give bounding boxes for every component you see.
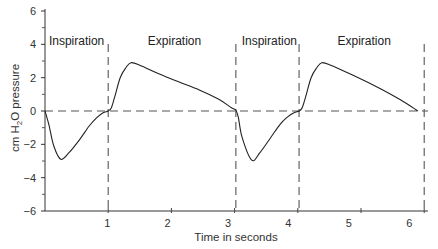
chart: 6420−2−4−6 123456 InspirationExpirationI… bbox=[0, 0, 438, 249]
y-axis-title-pre: cm H bbox=[9, 125, 21, 152]
x-tick-label: 1 bbox=[104, 217, 110, 229]
phase-label: Expiration bbox=[148, 34, 201, 48]
reference-lines bbox=[45, 44, 428, 211]
y-axis-ticks: 6420−2−4−6 bbox=[23, 5, 45, 217]
y-tick-label: −6 bbox=[23, 205, 36, 217]
y-tick-label: −2 bbox=[23, 138, 36, 150]
phase-annotations: InspirationExpirationInspirationExpirati… bbox=[49, 34, 391, 48]
x-tick-label: 6 bbox=[406, 217, 412, 229]
x-tick-label: 5 bbox=[346, 217, 352, 229]
x-tick-label: 2 bbox=[165, 217, 171, 229]
x-tick-label: 4 bbox=[285, 217, 291, 229]
y-axis-title-post: O pressure bbox=[9, 64, 21, 121]
pressure-curve bbox=[45, 63, 418, 161]
y-tick-label: 4 bbox=[30, 38, 36, 50]
phase-label: Inspiration bbox=[49, 34, 104, 48]
x-tick-label: 3 bbox=[225, 217, 231, 229]
phase-label: Inspiration bbox=[242, 34, 297, 48]
phase-label: Expiration bbox=[337, 34, 390, 48]
y-tick-label: 0 bbox=[30, 105, 36, 117]
y-tick-label: 2 bbox=[30, 72, 36, 84]
y-tick-label: 6 bbox=[30, 5, 36, 17]
y-axis-title: cm H2O pressure bbox=[9, 64, 24, 152]
y-tick-label: −4 bbox=[23, 172, 36, 184]
x-axis-title: Time in seconds bbox=[194, 231, 278, 243]
